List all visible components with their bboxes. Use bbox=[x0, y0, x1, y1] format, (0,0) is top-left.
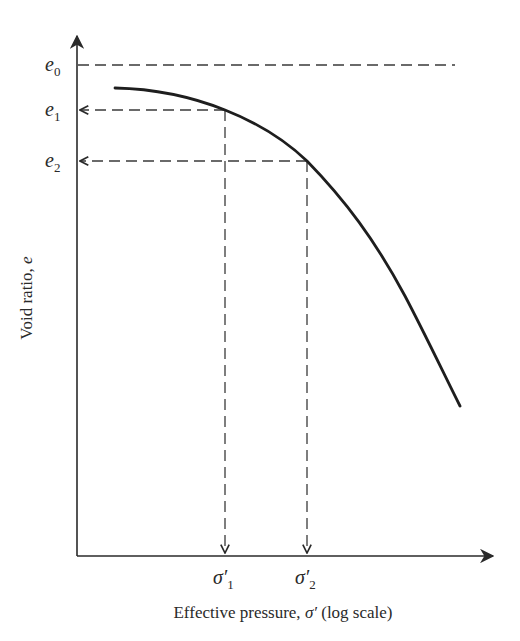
tick-label-sigma1: σ′1 bbox=[213, 566, 234, 589]
tick-label-e1: e1 bbox=[45, 98, 60, 121]
x-axis-label: Effective pressure, σ′ (log scale) bbox=[173, 603, 392, 623]
tick-label-sigma2: σ′2 bbox=[295, 566, 316, 589]
tick-label-e2: e2 bbox=[45, 149, 60, 172]
compression-curve bbox=[115, 88, 460, 406]
diagram-canvas bbox=[0, 0, 520, 641]
y-axis-label: Void ratio, e bbox=[17, 256, 37, 339]
tick-label-e0: e0 bbox=[45, 53, 60, 76]
consolidation-diagram: e0 e1 e2 σ′1 σ′2 Void ratio, e Effective… bbox=[0, 0, 520, 641]
